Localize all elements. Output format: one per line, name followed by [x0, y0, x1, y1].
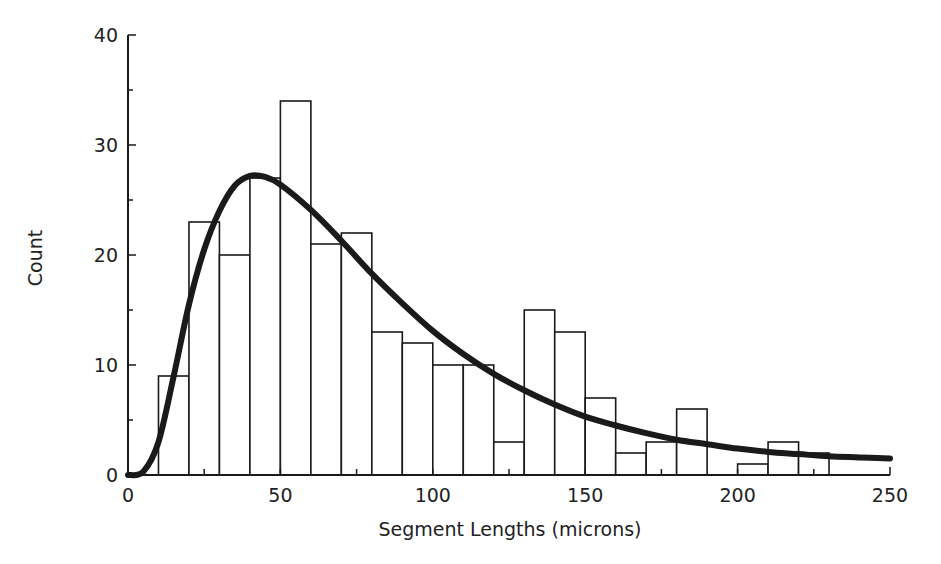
histogram-bar — [433, 365, 463, 475]
x-tick-label: 100 — [415, 484, 451, 506]
histogram-bar — [738, 464, 768, 475]
y-tick-label: 40 — [94, 24, 118, 46]
histogram-bar — [280, 101, 310, 475]
y-tick-label: 10 — [94, 354, 118, 376]
y-tick-label: 20 — [94, 244, 118, 266]
histogram-bar — [402, 343, 432, 475]
histogram-bar — [189, 222, 219, 475]
y-axis-title: Count — [24, 230, 46, 286]
histogram-bar — [250, 178, 280, 475]
x-tick-label: 50 — [268, 484, 292, 506]
x-tick-label: 250 — [872, 484, 908, 506]
x-tick-label: 200 — [719, 484, 755, 506]
x-axis-title: Segment Lengths (microns) — [378, 518, 641, 540]
histogram-bar — [585, 398, 615, 475]
histogram-chart: 010203040 050100150200250 Segment Length… — [0, 0, 941, 564]
x-tick-label: 150 — [567, 484, 603, 506]
y-tick-label: 30 — [94, 134, 118, 156]
histogram-bar — [463, 365, 493, 475]
y-tick-label: 0 — [106, 464, 118, 486]
histogram-bar — [616, 453, 646, 475]
x-tick-label: 0 — [122, 484, 134, 506]
histogram-bars — [158, 101, 829, 475]
histogram-bar — [372, 332, 402, 475]
histogram-bar — [219, 255, 249, 475]
histogram-bar — [768, 442, 798, 475]
histogram-bar — [311, 244, 341, 475]
y-axis-ticks: 010203040 — [94, 24, 136, 486]
